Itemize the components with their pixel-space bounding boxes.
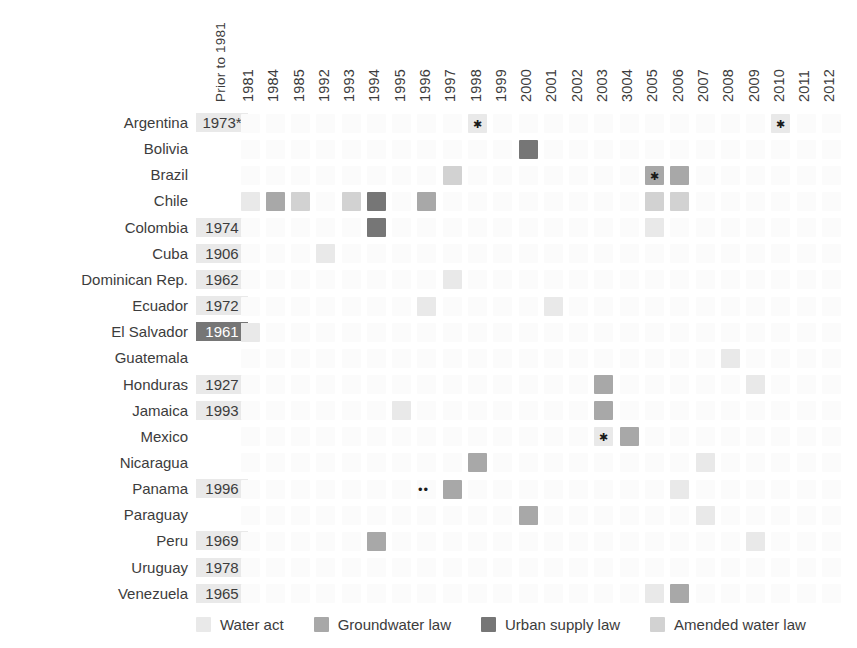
- grid-cell-background: [392, 323, 411, 342]
- grid-cell-background: [645, 427, 664, 446]
- column-header-2008: 2008: [720, 69, 736, 102]
- grid-cell-background: [519, 480, 538, 499]
- legend-label-water-act: Water act: [220, 616, 284, 633]
- grid-cell-background: [594, 532, 613, 551]
- column-header-1995: 1995: [392, 69, 408, 102]
- grid-cell-background: [645, 532, 664, 551]
- grid-cell-background: [266, 401, 285, 420]
- grid-cell-background: [771, 349, 790, 368]
- grid-cell-background: [771, 375, 790, 394]
- grid-cell-background: [392, 140, 411, 159]
- grid-cell-background: [822, 323, 841, 342]
- grid-cell-background: [468, 244, 487, 263]
- grid-cell-background: [367, 584, 386, 603]
- grid-cell-background: [417, 349, 436, 368]
- grid-cell-background: [266, 140, 285, 159]
- grid-cell-background: [316, 114, 335, 133]
- grid-cell-background: [417, 140, 436, 159]
- grid-cell-background: [291, 532, 310, 551]
- mark-water-act-nicaragua-2007: [696, 453, 715, 472]
- grid-cell-background: [822, 480, 841, 499]
- grid-cell-background: [721, 401, 740, 420]
- grid-cell-background: [721, 140, 740, 159]
- grid-cell-background: [417, 323, 436, 342]
- row-label-mexico: Mexico: [0, 429, 188, 445]
- grid-cell-background: [771, 192, 790, 211]
- mark-groundwater-law-honduras-2003: [594, 375, 613, 394]
- grid-cell-background: [771, 401, 790, 420]
- grid-cell-background: [544, 584, 563, 603]
- grid-cell-background: [342, 218, 361, 237]
- grid-cell-background: [746, 323, 765, 342]
- grid-cell-background: [620, 453, 639, 472]
- grid-cell-background: [696, 114, 715, 133]
- grid-cell-background: [569, 427, 588, 446]
- grid-cell-background: [797, 244, 816, 263]
- grid-cell-background: [544, 270, 563, 289]
- grid-cell-background: [797, 192, 816, 211]
- row-label-panama: Panama: [0, 481, 188, 497]
- grid-cell-background: [544, 558, 563, 577]
- grid-cell-background: [721, 453, 740, 472]
- grid-cell-background: [670, 323, 689, 342]
- grid-cell-background: [316, 140, 335, 159]
- grid-cell-background: [670, 558, 689, 577]
- grid-cell-background: [241, 558, 260, 577]
- grid-cell-background: [342, 375, 361, 394]
- grid-cell-background: [594, 506, 613, 525]
- grid-cell-background: [594, 218, 613, 237]
- grid-cell-background: [241, 114, 260, 133]
- grid-cell-background: [822, 218, 841, 237]
- column-header-1996: 1996: [417, 69, 433, 102]
- grid-cell-background: [241, 427, 260, 446]
- grid-cell-background: [620, 192, 639, 211]
- mark-urban-supply-law-colombia-1994: [367, 218, 386, 237]
- grid-cell-background: [392, 349, 411, 368]
- grid-cell-background: [822, 192, 841, 211]
- grid-cell-background: [569, 270, 588, 289]
- grid-cell-background: [493, 453, 512, 472]
- grid-cell-background: [468, 270, 487, 289]
- grid-cell-background: [569, 166, 588, 185]
- grid-cell-background: [468, 297, 487, 316]
- grid-cell-background: [797, 375, 816, 394]
- mark-water-act-ecuador-1996: [417, 297, 436, 316]
- grid-cell-background: [645, 244, 664, 263]
- grid-cell-background: [771, 532, 790, 551]
- grid-cell-background: [645, 480, 664, 499]
- grid-cell-background: [519, 584, 538, 603]
- mark-groundwater-law-peru-1994: [367, 532, 386, 551]
- grid-cell-background: [443, 584, 462, 603]
- grid-cell-background: [342, 558, 361, 577]
- grid-cell-background: [594, 349, 613, 368]
- grid-cell-background: [443, 218, 462, 237]
- grid-cell-background: [493, 270, 512, 289]
- grid-cell-background: [291, 349, 310, 368]
- grid-cell-background: [266, 584, 285, 603]
- grid-cell-background: [670, 401, 689, 420]
- column-header-2010: 2010: [771, 69, 787, 102]
- grid-cell-background: [620, 166, 639, 185]
- grid-cell-background: [569, 558, 588, 577]
- grid-cell-background: [544, 218, 563, 237]
- grid-cell-background: [544, 244, 563, 263]
- grid-cell-background: [696, 427, 715, 446]
- grid-cell-background: [266, 480, 285, 499]
- grid-cell-background: [241, 244, 260, 263]
- grid-cell-background: [316, 506, 335, 525]
- grid-cell-background: [367, 114, 386, 133]
- grid-cell-background: [417, 453, 436, 472]
- column-header-row: Prior to 1981198119841985199219931994199…: [0, 0, 857, 112]
- grid-cell-background: [620, 323, 639, 342]
- grid-cell-background: [696, 192, 715, 211]
- grid-cell-background: [620, 506, 639, 525]
- legend-label-groundwater-law: Groundwater law: [338, 616, 451, 633]
- legend-label-urban-supply-law: Urban supply law: [505, 616, 620, 633]
- grid-cell-background: [342, 297, 361, 316]
- grid-cell-background: [417, 427, 436, 446]
- grid-cell-background: [291, 244, 310, 263]
- grid-cell-background: [316, 558, 335, 577]
- grid-cell-background: [367, 140, 386, 159]
- grid-cell-background: [620, 270, 639, 289]
- grid-cell-background: [822, 166, 841, 185]
